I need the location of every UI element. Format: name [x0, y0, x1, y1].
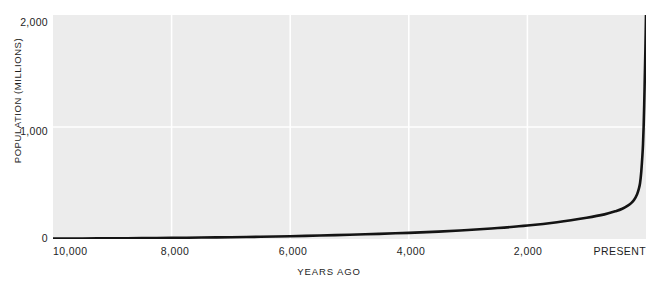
x-tick-label-10000: 10,000	[53, 245, 88, 257]
population-growth-chart: 2,000 1,000 0 POPULATION (MILLIONS) 10,0…	[0, 0, 658, 288]
x-tick-label-present: PRESENT	[566, 245, 646, 257]
x-axis-title: YEARS AGO	[0, 266, 658, 277]
x-tick-label-6000: 6,000	[279, 245, 307, 257]
x-tick-label-8000: 8,000	[161, 245, 189, 257]
x-tick-label-2000: 2,000	[514, 245, 542, 257]
x-tick-label-4000: 4,000	[397, 245, 425, 257]
x-axis: 10,000 8,000 6,000 4,000 2,000 PRESENT	[0, 0, 658, 288]
